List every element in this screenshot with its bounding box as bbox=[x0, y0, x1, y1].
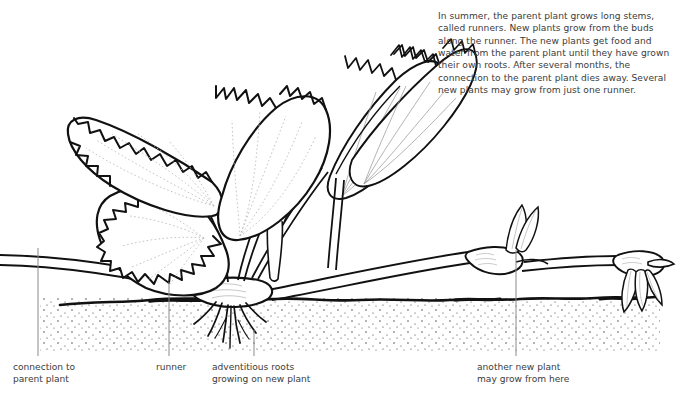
label-another-new-plant: another new plant may grow from here bbox=[477, 362, 569, 385]
runner-node-end bbox=[613, 251, 674, 312]
soil-layer bbox=[40, 296, 660, 352]
leaf-upper-left bbox=[68, 118, 223, 217]
diagram-canvas: In summer, the parent plant grows long s… bbox=[0, 0, 683, 408]
leaf-center bbox=[216, 86, 330, 240]
explanatory-note: In summer, the parent plant grows long s… bbox=[438, 10, 678, 96]
runner-segment-to-end bbox=[522, 256, 620, 271]
label-runner: runner bbox=[156, 362, 186, 374]
label-adventitious-roots: adventitious roots growing on new plant bbox=[212, 362, 310, 385]
runner-node-middle bbox=[466, 205, 548, 274]
runner-right-to-new-plants bbox=[268, 252, 470, 300]
label-connection-to-parent-plant: connection to parent plant bbox=[13, 362, 75, 385]
